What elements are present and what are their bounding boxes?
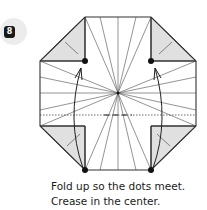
caption-line-1: Fold up so the dots meet. (51, 179, 185, 194)
instruction-caption: Fold up so the dots meet. Crease in the … (51, 179, 185, 208)
caption-line-2: Crease in the center. (51, 194, 185, 209)
